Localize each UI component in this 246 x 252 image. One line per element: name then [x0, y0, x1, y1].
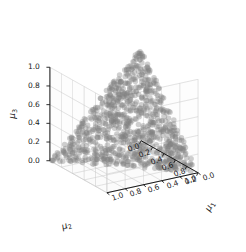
scatter-point: [104, 94, 110, 100]
scatter-point: [91, 146, 97, 152]
scatter-point: [122, 67, 128, 73]
scatter-point: [104, 88, 110, 94]
tick-mark: [125, 189, 128, 191]
scatter-point: [93, 121, 99, 127]
scatter-point: [90, 161, 96, 167]
tick-mark: [198, 173, 201, 175]
scatter-point: [163, 141, 169, 147]
scatter-point: [52, 153, 58, 159]
scatter-point: [114, 131, 120, 137]
scatter-point: [140, 123, 146, 128]
scatter-point: [136, 122, 142, 128]
tick-mark: [180, 177, 183, 179]
scatter-point: [94, 134, 100, 140]
scatter-point: [171, 117, 177, 123]
scatter-point: [151, 75, 157, 81]
z-tick-label: 0.8: [28, 81, 40, 90]
scatter-point: [133, 84, 139, 90]
scatter-point: [74, 129, 80, 135]
scatter-point: [60, 148, 66, 154]
scatter-point: [122, 74, 128, 80]
scatter-point: [98, 96, 104, 102]
z-tick-label: 1.0: [28, 62, 40, 71]
scatter3d-plot: 0.00.20.40.60.81.00.00.20.40.60.81.00.00…: [0, 0, 246, 252]
z-tick-label: 0.4: [28, 118, 40, 127]
scatter-point: [67, 135, 73, 141]
z-tick-label: 0.2: [28, 137, 40, 146]
tick-mark: [162, 181, 165, 183]
scatter-point: [62, 142, 68, 148]
scatter-point: [116, 146, 122, 152]
axis-label-mu3: μ3: [7, 109, 19, 119]
scatter-point: [133, 52, 139, 58]
z-tick-label: 0.6: [28, 100, 40, 109]
tick-mark: [107, 193, 110, 195]
scatter-point: [88, 109, 94, 115]
z-tick-label: 0.0: [28, 156, 40, 165]
